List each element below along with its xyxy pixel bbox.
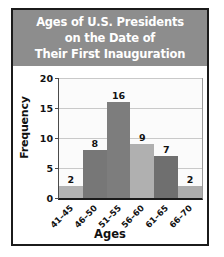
bar-value-label: 9 [130, 132, 154, 143]
page-title-line-2: on the Date of [65, 30, 155, 46]
y-axis-tick-10: 10 [40, 133, 53, 144]
bar-value-label: 8 [83, 138, 107, 149]
bar-value-label: 2 [59, 174, 83, 185]
bar-slot: 2 [178, 78, 202, 198]
y-axis-tick-20: 20 [40, 73, 53, 84]
bar-slot: 2 [59, 78, 83, 198]
y-axis-tick-15: 15 [40, 103, 53, 114]
bar-slot: 7 [154, 78, 178, 198]
y-axis-tick-5: 5 [46, 163, 53, 174]
chart-title-banner: Ages of U.S. Presidents on the Date of T… [13, 10, 207, 66]
chart-figure: Ages of U.S. Presidents on the Date of T… [11, 8, 209, 246]
bar-slot: 9 [130, 78, 154, 198]
y-tickmark-0 [55, 198, 59, 199]
bar-value-label: 7 [154, 144, 178, 155]
page-title-line-1: Ages of U.S. Presidents [36, 14, 184, 30]
bar-value-label: 16 [107, 90, 131, 101]
x-axis-title: Ages [13, 227, 207, 241]
y-axis-title: Frequency [15, 88, 33, 166]
plot-area: 2816972 [58, 78, 203, 200]
y-axis-tick-0: 0 [46, 193, 53, 204]
bar-slot: 8 [83, 78, 107, 198]
y-axis-tick-labels: 05101520 [33, 66, 55, 198]
y-axis-title-text: Frequency [18, 96, 31, 159]
bar-series: 2816972 [59, 78, 202, 198]
chart-area: Frequency 05101520 2816972 41–4546–5051–… [13, 66, 207, 244]
page-title-line-3: Their First Inauguration [35, 46, 185, 62]
bar-slot: 16 [107, 78, 131, 198]
